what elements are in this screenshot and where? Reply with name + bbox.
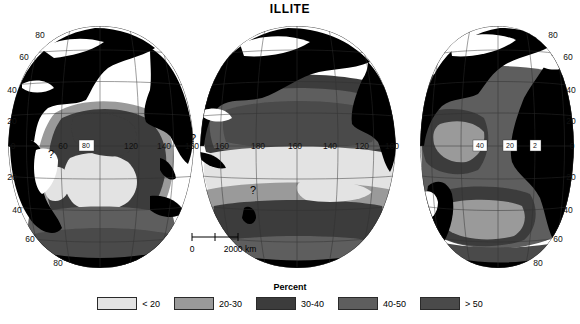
figure-title: ILLITE: [0, 2, 580, 16]
lat-label-40s: 40: [12, 205, 22, 215]
scale-start-label: 0: [190, 244, 195, 254]
legend-item-40-50: 40-50: [338, 297, 406, 310]
lat-label-20s: 20: [7, 172, 17, 182]
legend-item-20-30: 20-30: [174, 297, 242, 310]
illite-distribution-map-figure: ILLITE: [0, 0, 580, 324]
lon-label-120-b: 120: [355, 141, 369, 151]
lon-label-20-atl: 20: [506, 142, 514, 149]
lon-label-100: 100: [385, 141, 399, 151]
lat-label-60n: 60: [19, 52, 29, 62]
legend-swatch-lt20: [97, 297, 137, 310]
legend: Percent < 20 20-30 30-40 40-50 > 50: [0, 282, 580, 324]
legend-label-40-50: 40-50: [383, 299, 406, 309]
legend-items: < 20 20-30 30-40 40-50 > 50: [0, 297, 580, 310]
legend-swatch-40-50: [338, 297, 378, 310]
lat-label-40n: 40: [7, 85, 17, 95]
lat-label-0-right: 0: [570, 141, 575, 151]
legend-heading: Percent: [0, 282, 580, 292]
legend-label-20-30: 20-30: [219, 299, 242, 309]
lobe-pacific-ocean: 160 180 160 140 120 100 ? 0 2000 km: [190, 18, 400, 283]
lat-label-60s: 60: [25, 234, 35, 244]
legend-item-30-40: 30-40: [256, 297, 324, 310]
lat-label-80s-right: 80: [533, 258, 543, 268]
legend-label-gt50: > 50: [465, 299, 483, 309]
lat-label-60n-right: 60: [563, 52, 573, 62]
lobe-indian-ocean: 80 60 40 20 0 20 40 60 80 60 80 120 140 …: [0, 18, 200, 283]
lon-label-140: 140: [157, 141, 171, 151]
lon-label-2-atl: 2: [533, 142, 537, 149]
band-lt20-core: [64, 153, 137, 211]
lat-label-40n-right: 40: [566, 85, 576, 95]
legend-swatch-20-30: [174, 297, 214, 310]
question-mark-indonesia: ?: [190, 132, 196, 144]
world-map: 80 60 40 20 0 20 40 60 80 60 80 120 140 …: [0, 18, 580, 283]
legend-swatch-30-40: [256, 297, 296, 310]
question-mark-arabian-sea: ?: [48, 148, 54, 160]
lon-labels-atlantic: 40 20 2: [473, 140, 541, 151]
legend-item-lt20: < 20: [97, 297, 160, 310]
lon-label-120: 120: [124, 141, 138, 151]
lat-label-80s: 80: [53, 258, 63, 268]
lon-label-80: 80: [82, 142, 90, 149]
lat-label-40s-right: 40: [563, 205, 573, 215]
lat-label-0: 0: [11, 141, 16, 151]
scale-end-label: 2000 km: [224, 244, 257, 254]
question-mark-australia-south: ?: [250, 184, 256, 196]
legend-swatch-gt50: [420, 297, 460, 310]
lat-label-80n-right: 80: [548, 30, 558, 40]
legend-label-lt20: < 20: [142, 299, 160, 309]
lon-label-140-b: 140: [323, 141, 337, 151]
lat-label-20n: 20: [7, 116, 17, 126]
lon-label-180: 180: [251, 141, 265, 151]
lobe-atlantic-ocean: 80 60 40 20 0 20 40 60 80 40 20 2: [418, 18, 580, 283]
band-atl-20-30-south: [443, 200, 525, 240]
lon-label-160-b: 160: [215, 141, 229, 151]
lat-label-20s-right: 20: [566, 172, 576, 182]
legend-item-gt50: > 50: [420, 297, 483, 310]
lat-label-60s-right: 60: [553, 234, 563, 244]
lon-label-60: 60: [58, 141, 68, 151]
lat-label-20n-right: 20: [566, 116, 576, 126]
lon-label-160-c: 160: [288, 141, 302, 151]
lat-label-80n: 80: [35, 30, 45, 40]
legend-label-30-40: 30-40: [301, 299, 324, 309]
lon-label-40-atl: 40: [476, 142, 484, 149]
